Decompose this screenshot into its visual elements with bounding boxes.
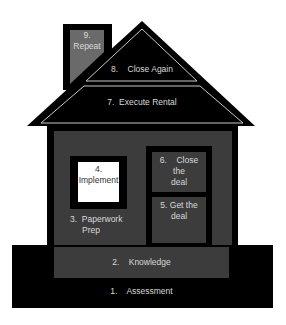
step-label: Prep [70, 225, 142, 236]
step-label: the [152, 166, 206, 177]
step-3-paperwork-prep: 3. Paperwork Prep [70, 214, 142, 236]
step-number: 4. [76, 164, 121, 175]
step-8-close-again: 8. Close Again [96, 64, 188, 75]
step-number: 3. Paperwork [70, 214, 142, 225]
step-label: deal [152, 177, 206, 188]
step-9-repeat: 9. Repeat [70, 30, 104, 52]
step-2-knowledge: 2. Knowledge [54, 257, 229, 268]
step-1-assessment: 1. Assessment [54, 286, 229, 297]
step-number: 5. Get the [152, 200, 206, 211]
step-label: deal [152, 211, 206, 222]
step-4-implement: 4. Implement [76, 164, 121, 186]
step-7-execute-rental: 7. Execute Rental [80, 97, 204, 108]
house-shape [0, 0, 286, 325]
house-diagram: 9. Repeat 8. Close Again 7. Execute Rent… [0, 0, 286, 325]
step-number: 6. Close [152, 155, 206, 166]
step-label: Repeat [70, 41, 104, 52]
step-5-get-the-deal: 5. Get the deal [152, 200, 206, 222]
step-6-close-the-deal: 6. Close the deal [152, 155, 206, 188]
step-label: Implement [76, 175, 121, 186]
step-number: 9. [70, 30, 104, 41]
